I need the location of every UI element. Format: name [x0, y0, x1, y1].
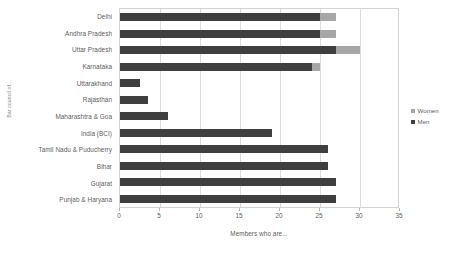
bar-row: [120, 92, 398, 109]
x-axis-tick: [359, 208, 360, 211]
bar-stack: [120, 178, 336, 186]
category-label: Tamil Nadu & Puducherry: [0, 141, 116, 158]
category-label: Maharashtra & Goa: [0, 108, 116, 125]
category-label: Punjab & Haryana: [0, 191, 116, 208]
legend-swatch-icon: [411, 120, 415, 124]
x-axis-tick-label: 15: [235, 212, 242, 219]
x-axis-tick-label: 0: [117, 212, 121, 219]
category-label: Rajasthan: [0, 91, 116, 108]
x-axis-title: Members who are...: [119, 230, 399, 237]
bar-segment-women: [312, 63, 320, 71]
legend-item[interactable]: Men: [411, 118, 453, 125]
x-axis-tick-label: 10: [195, 212, 202, 219]
bar-row: [120, 141, 398, 158]
bar-segment-men: [120, 195, 336, 203]
bar-segment-men: [120, 129, 272, 137]
bar-segment-men: [120, 13, 320, 21]
bar-row: [120, 125, 398, 142]
legend: WomenMen: [411, 107, 453, 129]
bar-row: [120, 9, 398, 26]
bar-stack: [120, 129, 272, 137]
bar-row: [120, 42, 398, 59]
bar-row: [120, 158, 398, 175]
x-axis-tick: [199, 208, 200, 211]
category-label: Uttar Pradesh: [0, 41, 116, 58]
bar-segment-men: [120, 63, 312, 71]
bar-stack: [120, 30, 336, 38]
x-axis-tick-label: 20: [275, 212, 282, 219]
x-axis-tick-label: 30: [355, 212, 362, 219]
bar-segment-women: [320, 13, 336, 21]
bar-row: [120, 26, 398, 43]
x-axis-tick: [239, 208, 240, 211]
bar-row: [120, 75, 398, 92]
category-label: India (BCI): [0, 125, 116, 142]
x-axis-tick: [159, 208, 160, 211]
bar-stack: [120, 112, 168, 120]
bar-segment-women: [336, 46, 360, 54]
x-axis-tick-label: 35: [395, 212, 402, 219]
category-label: Delhi: [0, 8, 116, 25]
x-axis-tick-label: 25: [315, 212, 322, 219]
bar-stack: [120, 79, 140, 87]
bar-row: [120, 108, 398, 125]
legend-item[interactable]: Women: [411, 107, 453, 114]
bar-row: [120, 174, 398, 191]
bar-stack: [120, 96, 148, 104]
category-label: Uttarakhand: [0, 75, 116, 92]
bar-segment-men: [120, 46, 336, 54]
legend-label: Men: [418, 118, 430, 125]
category-label: Andhra Pradesh: [0, 25, 116, 42]
x-axis-tick: [399, 208, 400, 211]
bar-row: [120, 191, 398, 208]
bar-segment-men: [120, 79, 140, 87]
x-axis-tick: [319, 208, 320, 211]
category-label: Gujarat: [0, 175, 116, 192]
bar-stack: [120, 145, 328, 153]
legend-swatch-icon: [411, 109, 415, 113]
bar-chart: Bar council of... DelhiAndhra PradeshUtt…: [0, 0, 453, 258]
legend-label: Women: [418, 107, 439, 114]
category-label: Bihar: [0, 158, 116, 175]
bar-stack: [120, 63, 320, 71]
bar-series-container: [120, 9, 398, 207]
bar-segment-men: [120, 96, 148, 104]
y-axis-category-labels: DelhiAndhra PradeshUttar PradeshKarnatak…: [0, 8, 116, 208]
x-axis-tick-labels: 05101520253035: [119, 212, 399, 222]
x-axis-tick: [279, 208, 280, 211]
x-axis-tick: [119, 208, 120, 211]
bar-stack: [120, 46, 360, 54]
bar-segment-men: [120, 162, 328, 170]
bar-segment-men: [120, 178, 336, 186]
category-label: Karnataka: [0, 58, 116, 75]
bar-segment-men: [120, 145, 328, 153]
x-axis-tick-label: 5: [157, 212, 161, 219]
bar-segment-men: [120, 30, 320, 38]
bar-segment-women: [320, 30, 336, 38]
bar-stack: [120, 195, 336, 203]
bar-row: [120, 59, 398, 76]
bar-stack: [120, 162, 328, 170]
bar-stack: [120, 13, 336, 21]
bar-segment-men: [120, 112, 168, 120]
plot-area: [119, 8, 399, 208]
